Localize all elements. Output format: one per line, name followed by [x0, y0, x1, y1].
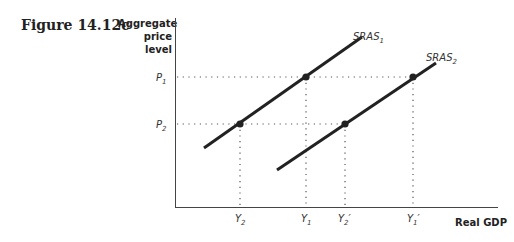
point-y2prime-p2 — [341, 120, 348, 127]
point-y1prime-p1 — [409, 73, 416, 80]
tick-y1: Y1 — [301, 213, 312, 227]
tick-y2: Y2 — [235, 213, 246, 227]
point-y1-p1 — [302, 73, 309, 80]
sras2-label: SRAS2 — [426, 52, 457, 66]
sras1-label: SRAS1 — [353, 31, 384, 45]
point-y2-p2 — [236, 120, 243, 127]
tick-p1: P1 — [156, 72, 167, 86]
tick-y2-prime: Y2′ — [338, 213, 352, 227]
tick-y1-prime: Y1′ — [407, 213, 421, 227]
chart-plot: P1 P2 Y2 Y1 Y2′ Y1′ SRAS1 SRAS2 — [0, 0, 514, 242]
tick-p2: P2 — [156, 119, 167, 133]
sras1-curve — [204, 37, 362, 148]
